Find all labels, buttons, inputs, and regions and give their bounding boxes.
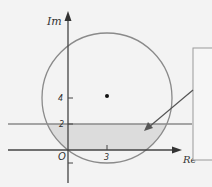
real-axis-arrow-icon (172, 147, 182, 154)
tick-label-x-3: 3 (104, 153, 109, 162)
argand-diagram: Im Re O 4 2 3 (0, 0, 212, 187)
imaginary-axis-label: Im (46, 15, 62, 28)
shaded-region (0, 124, 212, 150)
callout-box (193, 48, 212, 160)
center-point (105, 94, 109, 98)
imaginary-axis-arrow-icon (65, 11, 72, 21)
callout-arrow (149, 90, 193, 127)
tick-label-y-2: 2 (59, 120, 64, 129)
origin-label: O (58, 151, 66, 162)
tick-label-y-4: 4 (58, 94, 63, 103)
